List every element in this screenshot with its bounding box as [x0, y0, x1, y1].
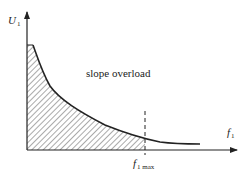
f1max-symbol: f — [133, 157, 136, 169]
slope-overload-label: slope overload — [86, 67, 150, 79]
y-axis-label: U1 — [8, 14, 20, 28]
x-axis-symbol: f — [227, 126, 230, 138]
y-axis-subscript: 1 — [17, 20, 21, 28]
f1max-label: f1 max — [133, 157, 154, 171]
slope-overload-region — [27, 45, 145, 150]
diagram-canvas — [0, 0, 248, 177]
y-axis-symbol: U — [8, 14, 16, 26]
f1max-subscript: 1 max — [137, 163, 154, 171]
x-axis-label: f1 — [227, 126, 235, 140]
x-axis-subscript: 1 — [231, 132, 235, 140]
